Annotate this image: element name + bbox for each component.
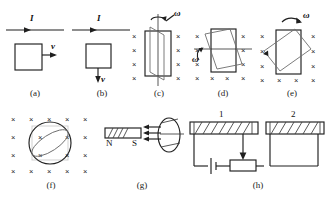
panel-e-caption: (e)	[277, 88, 307, 98]
coil-turn	[287, 122, 294, 134]
panel-e-omega-label: ω	[303, 10, 310, 20]
rotation-arrow-icon	[296, 18, 302, 24]
panel-d-omega-label: ω	[192, 54, 199, 64]
panel-b-caption: (b)	[87, 88, 117, 98]
rheostat-slider-arrow-icon	[240, 153, 247, 161]
panel-f-caption: (f)	[36, 180, 66, 190]
field-arrow-icon	[143, 124, 149, 129]
coil-turn	[295, 122, 302, 134]
panel-f-drawing	[4, 110, 100, 182]
coil-turn	[303, 122, 310, 134]
panel-d-drawing	[192, 12, 254, 90]
field-arrow-icon	[143, 136, 149, 141]
panel-g-north-label: N	[106, 138, 113, 148]
panel-c-drawing	[128, 12, 190, 90]
coil-turn	[311, 122, 318, 134]
panel-b: I v	[68, 12, 136, 90]
coil-turn	[195, 122, 202, 134]
coil-turn	[235, 122, 242, 134]
panel-a-current-label: I	[30, 13, 34, 23]
current-arrow-icon	[24, 27, 31, 33]
panel-f: × × × × × × × × × × × × × × × × × ×	[4, 110, 100, 182]
panel-c: × × × × × × × × ω	[128, 12, 190, 90]
coil-turn	[279, 122, 286, 134]
panel-g-drawing	[104, 118, 184, 174]
panel-b-current-label: I	[97, 13, 101, 23]
panel-h-caption: (h)	[243, 180, 273, 190]
panel-a: I v	[0, 12, 70, 90]
panel-a-caption: (a)	[20, 88, 50, 98]
tilted-loop-ellipse	[28, 125, 72, 161]
coil-turn	[203, 122, 210, 134]
rheostat	[230, 160, 256, 171]
magnet-hatch	[108, 128, 113, 138]
physics-figure: I v (a) I v (b) × × × × × × × ×	[0, 0, 330, 206]
coil-turn	[219, 122, 226, 134]
omega-leader	[166, 15, 174, 21]
panel-d-caption: (d)	[208, 88, 238, 98]
magnet-hatch	[113, 128, 118, 138]
panel-g-caption: (g)	[127, 180, 157, 190]
rect-loop	[86, 44, 111, 68]
coil-turn	[271, 122, 278, 134]
panel-g: N S	[104, 118, 184, 174]
coil-turn	[211, 122, 218, 134]
panel-e: × × × × × × × × × × ω	[256, 12, 326, 90]
panel-c-caption: (c)	[144, 88, 174, 98]
coil-turn	[243, 122, 250, 134]
magnet-hatch	[118, 128, 123, 138]
circular-loop	[29, 122, 71, 164]
panel-h-drawing	[186, 110, 328, 188]
solenoid-one	[190, 122, 258, 134]
panel-h-coil-one-label: 1	[219, 109, 224, 119]
velocity-arrow-icon	[95, 76, 101, 83]
panel-d: × × × × × × × × × × ω	[192, 12, 254, 90]
loop-front-face	[276, 30, 301, 74]
rect-loop	[15, 44, 42, 70]
magnet-hatch	[123, 128, 128, 138]
coil-turn	[227, 122, 234, 134]
panel-h: 1 2	[186, 110, 328, 188]
panel-c-omega-label: ω	[174, 8, 181, 18]
panel-a-velocity-label: v	[51, 41, 55, 51]
panel-h-coil-two-label: 2	[291, 109, 296, 119]
loop-tilted-face	[150, 27, 164, 80]
panel-e-drawing	[256, 12, 326, 90]
field-arrow-icon	[143, 130, 149, 135]
velocity-arrow-icon	[50, 52, 57, 58]
panel-g-south-label: S	[132, 138, 137, 148]
panel-a-drawing	[0, 12, 70, 90]
loop-rotated-face	[264, 29, 311, 71]
panel-b-velocity-label: v	[101, 74, 105, 84]
current-arrow-icon	[90, 27, 97, 33]
